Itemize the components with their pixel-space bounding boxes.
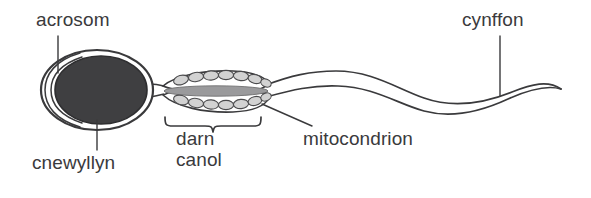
nucleus-shape (55, 56, 147, 124)
leader-mitocondrion (262, 104, 312, 126)
label-darn-canol-line1: darn (176, 128, 214, 149)
label-acrosom: acrosom (36, 9, 110, 30)
label-darn-canol: darncanol (176, 128, 222, 170)
label-cnewyllyn: cnewyllyn (32, 152, 115, 173)
label-cynffon: cynffon (462, 9, 524, 30)
label-darn-canol-line2: canol (176, 149, 222, 170)
label-mitocondrion: mitocondrion (303, 128, 413, 149)
tail-shape (266, 71, 561, 114)
sperm-cell-diagram: acrosom cynffon cnewyllyn mitocondrion d… (0, 0, 591, 198)
